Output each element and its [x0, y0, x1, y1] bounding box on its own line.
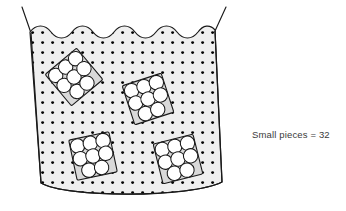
figure-root: Small pieces = 32	[0, 0, 346, 211]
tub-diagram: Small pieces = 32	[0, 0, 346, 211]
piece-group-3	[69, 132, 118, 181]
small-pieces-label: Small pieces = 32	[252, 129, 330, 140]
